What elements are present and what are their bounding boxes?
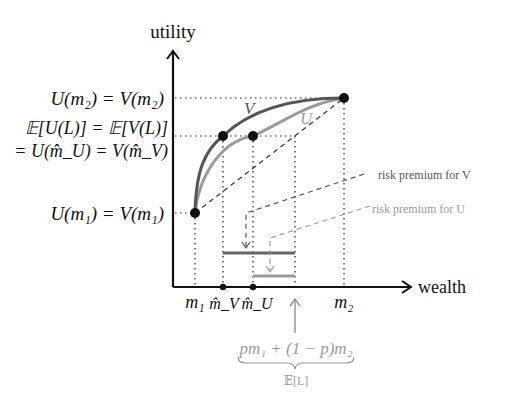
risk-premium-u-label: risk premium for U <box>372 202 465 216</box>
expected-value-expression: pm₁ + (1 − p)m₂ <box>238 339 352 358</box>
point-m2 <box>339 93 349 103</box>
curve-u-label: U <box>300 109 314 128</box>
point-u-hat <box>248 131 258 141</box>
risk-premium-v-label: risk premium for V <box>378 168 471 182</box>
x-tick-mhat-v: m̂_V <box>209 295 241 312</box>
underbrace <box>238 357 354 369</box>
x-tick-m1: m₁ <box>185 292 204 312</box>
y-tick-mid-line2: = U(m̂_U) = V(m̂_V) <box>14 141 168 162</box>
leader-risk-premium-v <box>246 174 364 247</box>
point-m1 <box>190 208 200 218</box>
y-tick-bottom: U(m₁) = V(m₁) <box>50 203 164 225</box>
x-tick-mhat-u: m̂_U <box>241 295 274 312</box>
x-tick-m2: m₂ <box>334 292 353 312</box>
leader-risk-premium-u <box>270 206 370 270</box>
y-tick-top: U(m₂) = V(m₂) <box>50 88 164 110</box>
utility-diagram: utility wealth U(m₂) = V(m₂) 𝔼[U(L)] = 𝔼… <box>0 0 505 401</box>
expected-value-label: 𝔼[L] <box>284 374 308 388</box>
point-v-hat <box>218 131 228 141</box>
y-tick-mid-line1: 𝔼[U(L)] = 𝔼[V(L)] <box>25 118 168 139</box>
y-axis-label: utility <box>150 21 196 42</box>
axis-point-mhat-v <box>220 284 226 290</box>
axis-point-mhat-u <box>250 284 256 290</box>
x-axis-label: wealth <box>418 277 466 297</box>
